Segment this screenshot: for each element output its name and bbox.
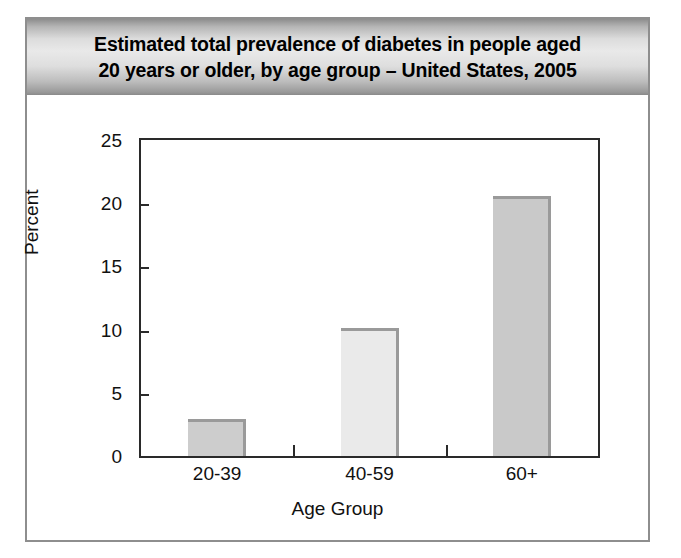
figure-title-line-1: Estimated total prevalence of diabetes i…: [94, 31, 581, 57]
figure-title-banner: Estimated total prevalence of diabetes i…: [27, 19, 648, 95]
bar-40-59: [341, 328, 399, 456]
x-tick-label-20-39: 20-39: [157, 463, 277, 485]
bar-20-39: [188, 419, 246, 456]
plot-area: [139, 138, 600, 458]
y-tick-label-0: 0: [111, 447, 122, 466]
y-axis-tick-10: [141, 331, 149, 333]
plot-inner: [141, 140, 598, 456]
figure-title-line-2: 20 years or older, by age group – United…: [98, 57, 576, 83]
y-tick-label-20: 20: [101, 194, 122, 213]
x-tick-label-60+: 60+: [462, 463, 582, 485]
x-axis-tick-0: [293, 445, 295, 456]
y-tick-label-15: 15: [101, 257, 122, 276]
bar-60+: [493, 196, 551, 456]
y-tick-label-25: 25: [101, 131, 122, 150]
chart-canvas: are not sed to rimary th the Aged abetes…: [27, 95, 648, 540]
y-axis-tick-15: [141, 267, 149, 269]
x-axis-title: Age Group: [27, 498, 648, 520]
y-tick-label-10: 10: [101, 321, 122, 340]
y-axis-tick-labels: 0510152025: [27, 138, 130, 458]
x-axis-tick-1: [446, 445, 448, 456]
y-axis-tick-20: [141, 204, 149, 206]
y-axis-tick-5: [141, 394, 149, 396]
figure-container: Estimated total prevalence of diabetes i…: [25, 17, 650, 542]
x-tick-label-40-59: 40-59: [310, 463, 430, 485]
y-tick-label-5: 5: [111, 384, 122, 403]
